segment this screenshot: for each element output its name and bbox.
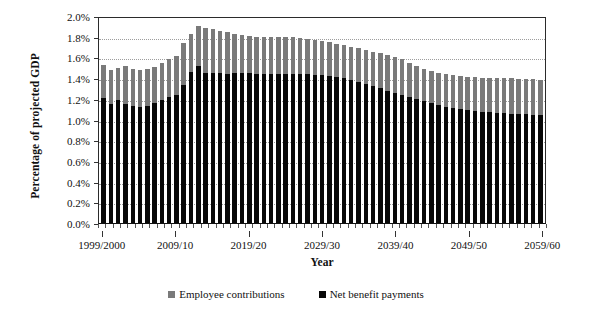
bar[interactable]: [109, 16, 114, 223]
bar[interactable]: [378, 16, 383, 223]
bar-slot[interactable]: [413, 18, 420, 223]
bar-slot[interactable]: [450, 18, 457, 223]
bar-slot[interactable]: [129, 18, 136, 223]
bar[interactable]: [101, 16, 106, 223]
bar-slot[interactable]: [231, 18, 238, 223]
bar-slot[interactable]: [289, 18, 296, 223]
bar[interactable]: [240, 16, 245, 223]
bar[interactable]: [203, 16, 208, 223]
bar[interactable]: [458, 16, 463, 223]
bar[interactable]: [414, 16, 419, 223]
bar-slot[interactable]: [238, 18, 245, 223]
bar[interactable]: [407, 16, 412, 223]
bar-slot[interactable]: [187, 18, 194, 223]
bar-slot[interactable]: [479, 18, 486, 223]
bar-slot[interactable]: [253, 18, 260, 223]
bar[interactable]: [145, 16, 150, 223]
bar[interactable]: [495, 16, 500, 223]
bar[interactable]: [232, 16, 237, 223]
bar-slot[interactable]: [399, 18, 406, 223]
bar[interactable]: [473, 16, 478, 223]
bar-slot[interactable]: [246, 18, 253, 223]
bar[interactable]: [422, 16, 427, 223]
bar[interactable]: [152, 16, 157, 223]
bar-slot[interactable]: [297, 18, 304, 223]
bar-slot[interactable]: [136, 18, 143, 223]
bar-slot[interactable]: [195, 18, 202, 223]
bar[interactable]: [400, 16, 405, 223]
bar[interactable]: [262, 16, 267, 223]
bar[interactable]: [174, 16, 179, 223]
bar[interactable]: [247, 16, 252, 223]
bar-slot[interactable]: [464, 18, 471, 223]
bar[interactable]: [138, 16, 143, 223]
bar-slot[interactable]: [115, 18, 122, 223]
bar-slot[interactable]: [391, 18, 398, 223]
bar-slot[interactable]: [144, 18, 151, 223]
bar[interactable]: [444, 16, 449, 223]
bar-slot[interactable]: [326, 18, 333, 223]
bar[interactable]: [502, 16, 507, 223]
bar-slot[interactable]: [202, 18, 209, 223]
bar-slot[interactable]: [122, 18, 129, 223]
bar[interactable]: [189, 16, 194, 223]
bar-slot[interactable]: [428, 18, 435, 223]
bar[interactable]: [305, 16, 310, 223]
bar-slot[interactable]: [362, 18, 369, 223]
bar[interactable]: [524, 16, 529, 223]
bar[interactable]: [123, 16, 128, 223]
bar[interactable]: [218, 16, 223, 223]
bar-slot[interactable]: [209, 18, 216, 223]
bar[interactable]: [364, 16, 369, 223]
bar[interactable]: [342, 16, 347, 223]
bar[interactable]: [487, 16, 492, 223]
bar-slot[interactable]: [166, 18, 173, 223]
bar-slot[interactable]: [508, 18, 515, 223]
bar[interactable]: [211, 16, 216, 223]
bar-slot[interactable]: [180, 18, 187, 223]
bar-slot[interactable]: [406, 18, 413, 223]
bar-slot[interactable]: [318, 18, 325, 223]
bar-slot[interactable]: [173, 18, 180, 223]
bar[interactable]: [436, 16, 441, 223]
bar-slot[interactable]: [348, 18, 355, 223]
bar[interactable]: [116, 16, 121, 223]
bar-slot[interactable]: [151, 18, 158, 223]
bar-slot[interactable]: [224, 18, 231, 223]
bar-slot[interactable]: [217, 18, 224, 223]
bar-slot[interactable]: [435, 18, 442, 223]
bar[interactable]: [451, 16, 456, 223]
bar-slot[interactable]: [515, 18, 522, 223]
bar-slot[interactable]: [260, 18, 267, 223]
bar[interactable]: [320, 16, 325, 223]
bar-slot[interactable]: [100, 18, 107, 223]
bar-slot[interactable]: [522, 18, 529, 223]
bar[interactable]: [349, 16, 354, 223]
bar[interactable]: [291, 16, 296, 223]
bar-slot[interactable]: [333, 18, 340, 223]
bar[interactable]: [167, 16, 172, 223]
bar[interactable]: [465, 16, 470, 223]
bar-slot[interactable]: [267, 18, 274, 223]
bar-slot[interactable]: [537, 18, 544, 223]
bar[interactable]: [334, 16, 339, 223]
bar[interactable]: [327, 16, 332, 223]
bar-slot[interactable]: [530, 18, 537, 223]
bar-slot[interactable]: [369, 18, 376, 223]
bar[interactable]: [429, 16, 434, 223]
bar[interactable]: [385, 16, 390, 223]
bar[interactable]: [269, 16, 274, 223]
bar-slot[interactable]: [311, 18, 318, 223]
bar-slot[interactable]: [486, 18, 493, 223]
bar-slot[interactable]: [304, 18, 311, 223]
bar-slot[interactable]: [471, 18, 478, 223]
bar-slot[interactable]: [158, 18, 165, 223]
bar-slot[interactable]: [377, 18, 384, 223]
bar-slot[interactable]: [282, 18, 289, 223]
bar[interactable]: [131, 16, 136, 223]
bar[interactable]: [196, 16, 201, 223]
bar[interactable]: [225, 16, 230, 223]
bar-slot[interactable]: [493, 18, 500, 223]
bar[interactable]: [283, 16, 288, 223]
bar-slot[interactable]: [420, 18, 427, 223]
